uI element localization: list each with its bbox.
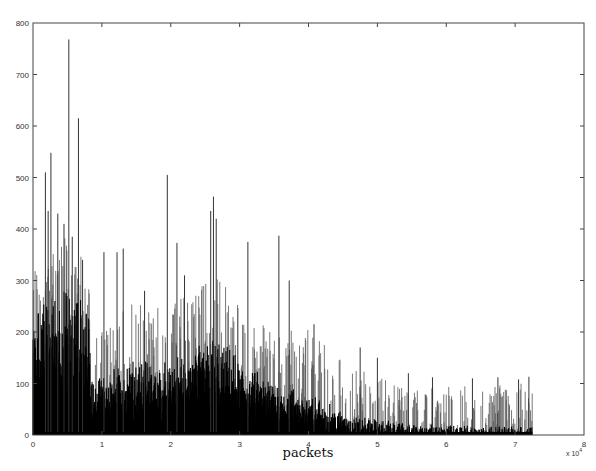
x-tick-label: 2 (169, 440, 174, 449)
x-tick-label: 6 (444, 440, 449, 449)
y-tick-label: 100 (16, 380, 30, 389)
multiplier-base: x 10 (566, 450, 579, 457)
y-tick-label: 800 (16, 19, 30, 28)
y-tick-label: 700 (16, 71, 30, 80)
packet-histogram-chart: 0100200300400500600700800 012345678 pack… (0, 0, 596, 471)
y-tick-label: 200 (16, 328, 30, 337)
x-axis-label: packets (283, 445, 334, 460)
x-tick-label: 0 (31, 440, 36, 449)
y-tick-label: 500 (16, 174, 30, 183)
multiplier-exponent: 4 (579, 447, 582, 453)
y-tick-label: 600 (16, 122, 30, 131)
x-tick-label: 8 (582, 440, 587, 449)
y-tick-label: 300 (16, 277, 30, 286)
x-tick-label: 3 (237, 440, 242, 449)
x-tick-label: 1 (100, 440, 105, 449)
x-tick-label: 7 (513, 440, 518, 449)
x-tick-label: 5 (375, 440, 380, 449)
y-tick-label: 400 (16, 225, 30, 234)
y-tick-label: 0 (25, 431, 30, 440)
